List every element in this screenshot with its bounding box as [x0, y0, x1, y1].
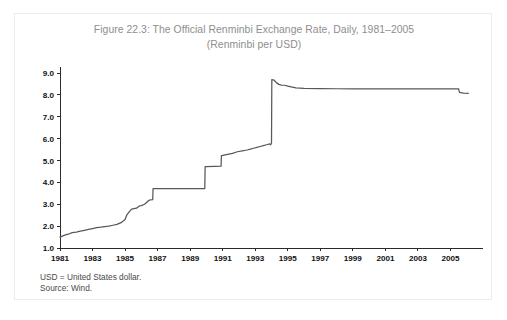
note-usd-definition: USD = United States dollar. — [40, 272, 470, 283]
y-tick-label: 5.0 — [43, 157, 55, 166]
x-tick-label: 1999 — [344, 254, 363, 263]
x-tick-label: 1987 — [149, 254, 168, 263]
x-tick-label: 1985 — [116, 254, 135, 263]
y-tick-label: 4.0 — [43, 178, 55, 187]
x-tick-label: 1993 — [246, 254, 265, 263]
chart-plot-area: 1.02.03.04.05.06.07.08.09.0 198119831985… — [15, 14, 493, 301]
note-source: Source: Wind. — [40, 283, 470, 294]
x-tick-label: 1983 — [84, 254, 103, 263]
y-axis: 1.02.03.04.05.06.07.08.09.0 — [43, 67, 60, 253]
y-tick-label: 7.0 — [43, 113, 55, 122]
x-tick-label: 1995 — [279, 254, 298, 263]
x-tick-label: 1997 — [311, 254, 330, 263]
series-line-renminbi-rate — [60, 80, 468, 238]
x-tick-label: 1991 — [214, 254, 233, 263]
figure-notes: USD = United States dollar. Source: Wind… — [40, 272, 470, 293]
x-axis: 1981198319851987198919911993199519971999… — [51, 248, 483, 263]
y-tick-label: 1.0 — [43, 244, 55, 253]
x-tick-label: 2005 — [441, 254, 460, 263]
series-group — [60, 80, 468, 238]
y-tick-label: 6.0 — [43, 135, 55, 144]
y-tick-label: 2.0 — [43, 222, 55, 231]
x-tick-label: 1989 — [181, 254, 200, 263]
y-tick-label: 9.0 — [43, 69, 55, 78]
x-tick-label: 2003 — [409, 254, 428, 263]
y-tick-label: 8.0 — [43, 91, 55, 100]
figure-card: Figure 22.3: The Official Renminbi Excha… — [14, 13, 492, 300]
exchange-rate-line-chart: 1.02.03.04.05.06.07.08.09.0 198119831985… — [15, 14, 493, 301]
y-tick-label: 3.0 — [43, 200, 55, 209]
x-tick-label: 1981 — [51, 254, 70, 263]
x-tick-label: 2001 — [376, 254, 395, 263]
